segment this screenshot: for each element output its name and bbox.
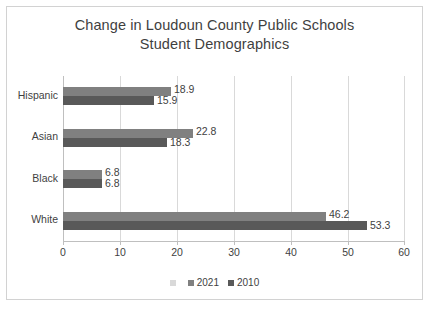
bar-group-asian: 22.8 18.3 [63, 118, 405, 160]
chart-container: Change in Loudoun County Public Schools … [0, 0, 431, 311]
legend-label-2021: 2021 [197, 277, 219, 288]
legend-item-blank[interactable] [170, 280, 179, 286]
bar-label-hispanic-2021: 18.9 [174, 84, 194, 95]
legend-swatch-blank-icon [170, 280, 176, 286]
category-label-asian: Asian [32, 130, 58, 142]
legend-item-2010[interactable]: 2010 [228, 277, 259, 288]
xtick-10: 10 [114, 246, 126, 259]
legend-label-2010: 2010 [237, 277, 259, 288]
bar-white-2010[interactable] [63, 221, 367, 230]
plot-area: 18.9 15.9 22.8 18.3 6.8 6.8 46.2 53.3 [63, 76, 405, 242]
legend-item-2021[interactable]: 2021 [188, 277, 219, 288]
xtick-50: 50 [342, 246, 354, 259]
bar-label-white-2021: 46.2 [329, 209, 349, 220]
legend-swatch-2010-icon [228, 280, 234, 286]
chart-title: Change in Loudoun County Public Schools … [6, 16, 423, 54]
xtick-30: 30 [228, 246, 240, 259]
chart-legend: 2021 2010 [6, 277, 423, 288]
category-label-black: Black [32, 172, 58, 184]
xtick-40: 40 [285, 246, 297, 259]
bar-hispanic-2010[interactable] [63, 96, 154, 105]
bar-white-2021[interactable] [63, 212, 326, 221]
bar-black-2010[interactable] [63, 179, 102, 188]
bar-label-asian-2021: 22.8 [196, 126, 216, 137]
bar-group-black: 6.8 6.8 [63, 159, 405, 201]
bar-black-2021[interactable] [63, 170, 102, 179]
value-axis: 0 10 20 30 40 50 60 [63, 246, 405, 264]
bar-label-asian-2010: 18.3 [170, 137, 190, 148]
category-axis: Hispanic Asian Black White [0, 76, 58, 242]
chart-title-line-2: Student Demographics [6, 35, 423, 54]
category-label-white: White [31, 213, 58, 225]
bar-label-black-2010: 6.8 [105, 178, 120, 189]
bar-group-hispanic: 18.9 15.9 [63, 76, 405, 118]
bar-hispanic-2021[interactable] [63, 87, 171, 96]
bar-asian-2010[interactable] [63, 138, 167, 147]
chart-title-line-1: Change in Loudoun County Public Schools [6, 16, 423, 35]
xtick-0: 0 [60, 246, 66, 259]
category-label-hispanic: Hispanic [18, 89, 58, 101]
xtick-20: 20 [171, 246, 183, 259]
xtick-60: 60 [398, 246, 410, 259]
bar-group-white: 46.2 53.3 [63, 201, 405, 243]
bar-label-white-2010: 53.3 [370, 220, 390, 231]
bar-label-hispanic-2010: 15.9 [157, 95, 177, 106]
legend-swatch-2021-icon [188, 280, 194, 286]
